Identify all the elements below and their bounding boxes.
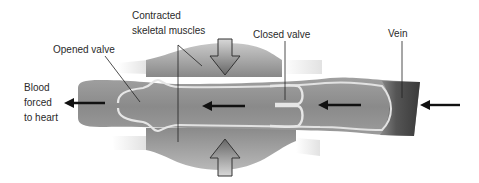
- lower-skeletal-muscle: [112, 128, 320, 170]
- label-vein: Vein: [388, 26, 407, 41]
- lower-muscle-tendon-left: [112, 136, 146, 150]
- label-contracted-muscles-line1: Contracted: [132, 8, 181, 23]
- label-contracted-muscles-line2: skeletal muscles: [132, 23, 205, 38]
- flow-arrow-into-vein-icon: [420, 100, 460, 110]
- label-opened-valve: Opened valve: [53, 42, 115, 57]
- vein: [78, 77, 420, 136]
- upper-muscle-tendon-left: [118, 60, 148, 74]
- lower-muscle-tendon-right: [296, 138, 320, 156]
- upper-muscle-tendon-right: [282, 60, 322, 74]
- label-closed-valve: Closed valve: [253, 27, 310, 42]
- label-blood-line3: to heart: [24, 110, 58, 125]
- label-blood-line2: forced: [24, 95, 52, 110]
- label-blood-line1: Blood: [24, 80, 50, 95]
- muscle-pump-diagram: Contracted skeletal muscles Opened valve…: [0, 0, 479, 183]
